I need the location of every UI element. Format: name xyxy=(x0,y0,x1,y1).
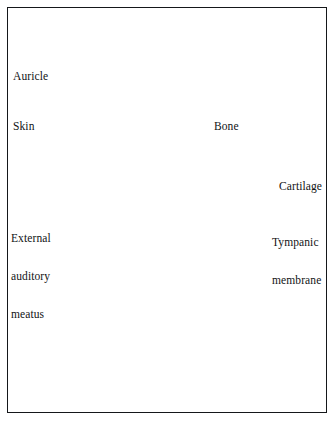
label-external-auditory-meatus: External auditory meatus xyxy=(11,207,51,346)
label-eam-line-1: External xyxy=(11,232,51,245)
label-cartilage: Cartilage xyxy=(279,155,322,218)
label-auricle-line-1: Auricle xyxy=(13,70,48,83)
label-bone: Bone xyxy=(214,95,239,158)
label-cartilage-line-1: Cartilage xyxy=(279,180,322,193)
label-tympanic-line-1: Tympanic xyxy=(272,236,321,249)
label-tympanic-membrane: Tympanic membrane xyxy=(272,211,321,312)
label-bone-line-1: Bone xyxy=(214,120,239,133)
label-eam-line-2: auditory xyxy=(11,270,51,283)
label-tympanic-line-2: membrane xyxy=(272,274,321,287)
ear-anatomy-figure: Auricle Skin External auditory meatus Bo… xyxy=(0,0,336,422)
label-skin-line-1: Skin xyxy=(13,120,35,133)
label-eam-line-3: meatus xyxy=(11,308,51,321)
label-skin: Skin xyxy=(13,95,35,158)
